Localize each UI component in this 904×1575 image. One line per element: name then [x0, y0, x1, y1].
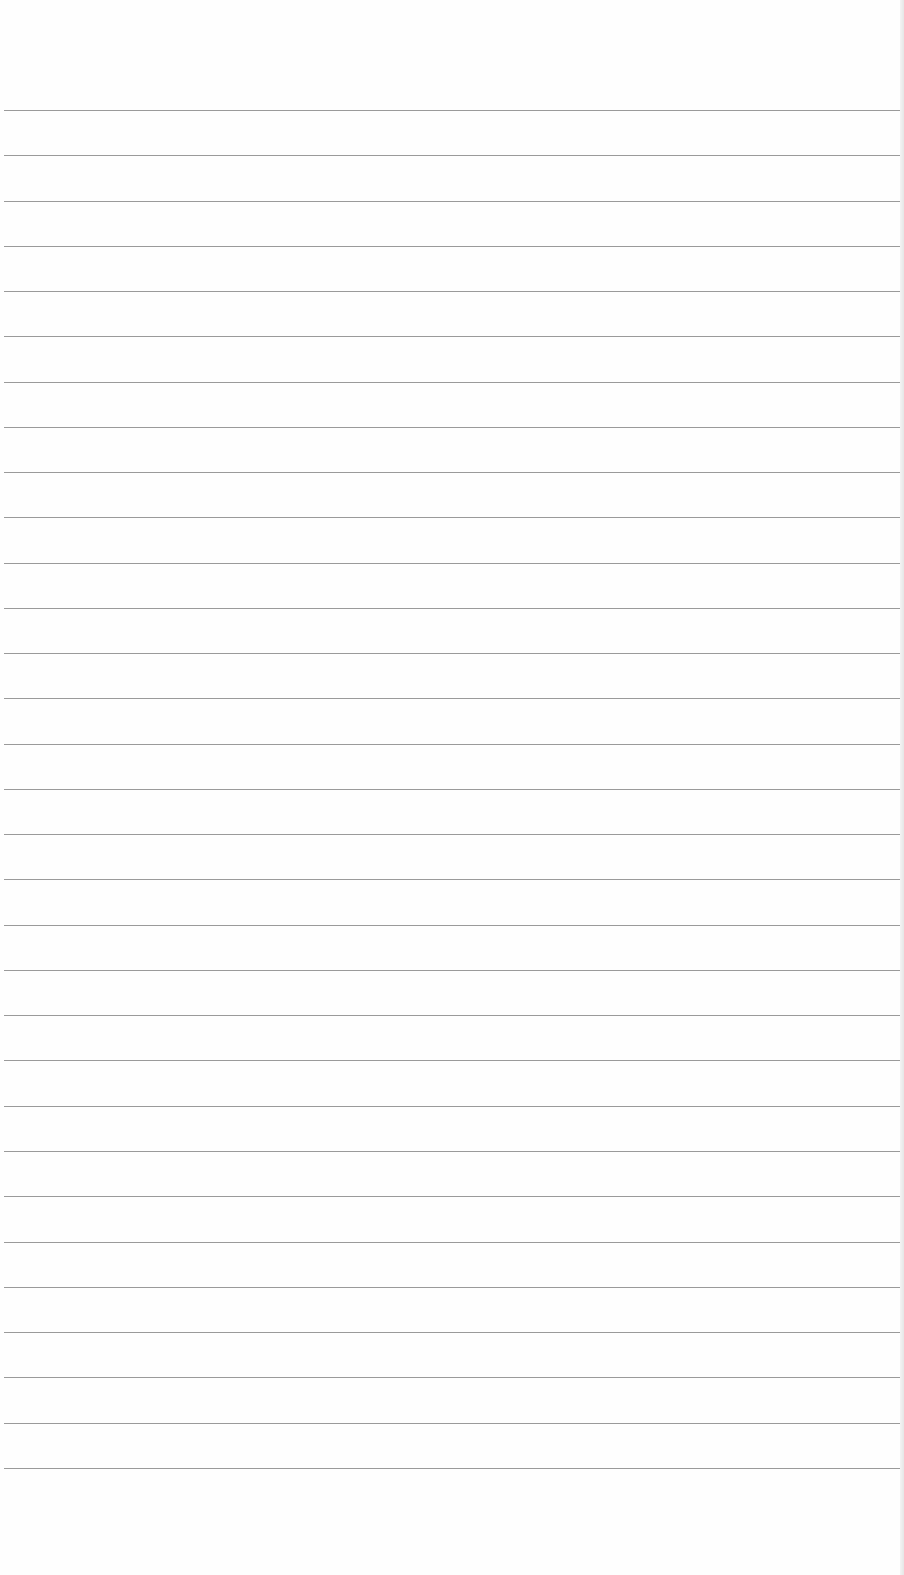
ruled-line [4, 608, 900, 609]
ruled-line [4, 382, 900, 383]
ruled-line [4, 472, 900, 473]
ruled-line [4, 698, 900, 699]
ruled-line [4, 1060, 900, 1061]
ruled-line [4, 1423, 900, 1424]
ruled-line [4, 789, 900, 790]
lined-paper-sheet [0, 0, 904, 1575]
ruled-line [4, 1468, 900, 1469]
ruled-line [4, 970, 900, 971]
ruled-line [4, 246, 900, 247]
ruled-line [4, 291, 900, 292]
ruled-line [4, 1015, 900, 1016]
ruled-line [4, 155, 900, 156]
ruled-line [4, 336, 900, 337]
ruled-line [4, 427, 900, 428]
ruled-line [4, 744, 900, 745]
paper-edge [900, 0, 904, 1575]
ruled-line [4, 834, 900, 835]
ruled-line [4, 563, 900, 564]
ruled-line [4, 1196, 900, 1197]
ruled-line [4, 653, 900, 654]
ruled-line [4, 1151, 900, 1152]
ruled-line [4, 201, 900, 202]
ruled-line [4, 925, 900, 926]
ruled-line [4, 1332, 900, 1333]
ruled-line [4, 1242, 900, 1243]
ruled-line [4, 110, 900, 111]
ruled-line [4, 879, 900, 880]
ruled-line [4, 517, 900, 518]
ruled-line [4, 1287, 900, 1288]
ruled-line [4, 1106, 900, 1107]
ruled-line [4, 1377, 900, 1378]
